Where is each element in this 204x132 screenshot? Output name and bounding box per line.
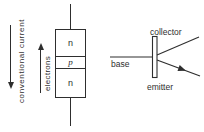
- collector-line: [157, 37, 199, 55]
- junction-bar: [153, 37, 158, 78]
- base-label: base: [111, 59, 129, 69]
- emitter-label: emitter: [147, 82, 173, 92]
- npn-transistor-diagram: conventional current electrons n p n col…: [0, 0, 204, 132]
- emitter-arrowhead-icon: [178, 65, 187, 71]
- transistor-symbol-graphic: [0, 0, 204, 132]
- emitter-line: [157, 60, 200, 76]
- collector-label: collector: [150, 27, 182, 37]
